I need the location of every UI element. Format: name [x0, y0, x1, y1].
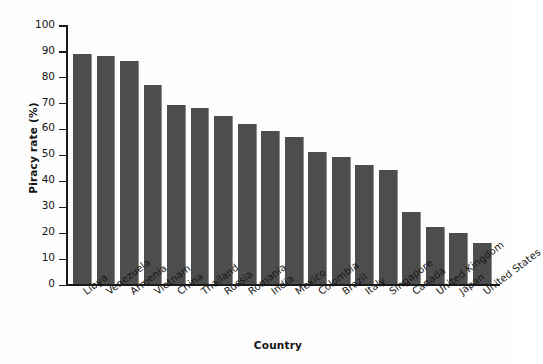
y-axis-tick: 40 — [59, 181, 66, 182]
bar-rect — [379, 170, 398, 284]
bar[interactable] — [167, 105, 186, 284]
bar[interactable] — [73, 54, 92, 285]
bar[interactable] — [214, 116, 233, 285]
bar-rect — [238, 124, 257, 285]
bar-rect — [285, 137, 304, 285]
bar-rect — [120, 61, 139, 284]
bar[interactable] — [191, 108, 210, 284]
y-axis-tick: 70 — [59, 103, 66, 104]
bar[interactable] — [308, 152, 327, 284]
bar[interactable] — [97, 56, 116, 284]
y-axis-tick: 30 — [59, 207, 66, 208]
bar-rect — [191, 108, 210, 284]
bar[interactable] — [261, 131, 280, 284]
y-axis-tick-label: 60 — [25, 121, 55, 133]
y-axis-tick-label: 10 — [25, 251, 55, 263]
y-axis-tick: 90 — [59, 51, 66, 52]
bar-rect — [167, 105, 186, 284]
x-axis-title: Country — [0, 339, 514, 351]
bar-rect — [308, 152, 327, 284]
y-axis-tick-label: 40 — [25, 173, 55, 185]
bar[interactable] — [144, 85, 163, 285]
bars-layer — [66, 25, 500, 284]
y-axis-tick: 20 — [59, 233, 66, 234]
y-axis-tick-label: 20 — [25, 225, 55, 237]
y-axis-tick-label: 90 — [25, 44, 55, 56]
y-axis-tick-label: 70 — [25, 96, 55, 108]
bar[interactable] — [238, 124, 257, 285]
y-axis-tick: 50 — [59, 155, 66, 156]
bar-rect — [144, 85, 163, 285]
y-axis-tick-label: 80 — [25, 70, 55, 82]
y-axis-tick: 100 — [59, 25, 66, 26]
y-axis-tick-label: 100 — [25, 18, 55, 30]
bar[interactable] — [379, 170, 398, 284]
y-axis-tick: 80 — [59, 77, 66, 78]
bar-rect — [261, 131, 280, 284]
bar[interactable] — [285, 137, 304, 285]
y-axis-tick-label: 30 — [25, 199, 55, 211]
plot-area: 1009080706050403020100 — [66, 25, 500, 286]
y-axis-tick-label: 50 — [25, 147, 55, 159]
y-axis-tick-label: 0 — [25, 277, 55, 289]
bar-rect — [73, 54, 92, 285]
bar[interactable] — [120, 61, 139, 284]
bar-rect — [97, 56, 116, 284]
y-axis-tick: 60 — [59, 129, 66, 130]
y-axis-tick: 0 — [59, 285, 66, 286]
bar-rect — [214, 116, 233, 285]
x-axis-tick-labels: LibyaVenezuelaArmeniaVietnamChinaThailan… — [66, 286, 500, 346]
y-axis-tick: 10 — [59, 259, 66, 260]
